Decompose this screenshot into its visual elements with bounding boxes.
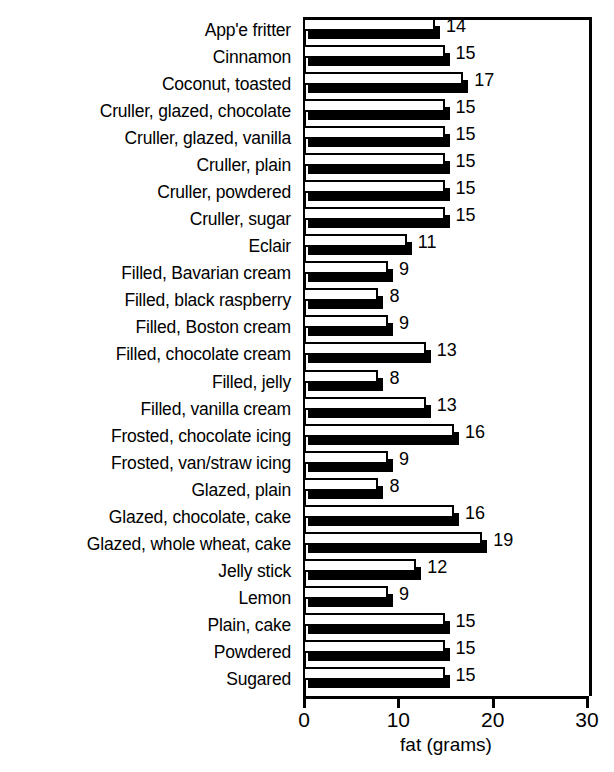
- category-label: Filled, vanilla cream: [0, 399, 296, 419]
- bar: 13: [303, 397, 434, 423]
- bar-value-label: 13: [437, 340, 457, 360]
- bar-value-label: 11: [418, 232, 437, 252]
- bar-value-label: 17: [474, 70, 494, 90]
- category-label: Filled, black raspberry: [0, 290, 296, 310]
- bar-face: [303, 342, 426, 355]
- x-tick-label: 10: [387, 708, 410, 732]
- bar-value-label: 8: [389, 368, 399, 388]
- plot-area: 1415171515151515119891381316981619129151…: [303, 17, 586, 693]
- bar: 9: [303, 315, 396, 341]
- bar: 15: [303, 126, 453, 152]
- bar-face: [303, 667, 445, 680]
- category-label: Filled, jelly: [0, 372, 296, 392]
- bar: 15: [303, 613, 453, 639]
- category-label: Plain, cake: [0, 615, 296, 635]
- bar-value-label: 15: [456, 178, 476, 198]
- x-tick-label: 0: [298, 708, 310, 732]
- category-label: Eclair: [0, 236, 296, 256]
- category-label: Frosted, chocolate icing: [0, 426, 296, 446]
- category-label: Cinnamon: [0, 47, 296, 67]
- bar-value-label: 15: [456, 665, 476, 685]
- category-label: Cruller, powdered: [0, 182, 296, 202]
- bar-value-label: 19: [493, 530, 513, 550]
- bar-face: [303, 18, 435, 31]
- bar: 11: [303, 234, 415, 260]
- category-label: App'e fritter: [0, 20, 296, 40]
- bar-value-label: 14: [446, 16, 466, 36]
- bar-value-label: 8: [389, 476, 399, 496]
- bar: 9: [303, 586, 396, 612]
- bar: 16: [303, 505, 462, 531]
- x-axis-line: [303, 696, 589, 699]
- bar: 15: [303, 99, 453, 125]
- category-label: Lemon: [0, 588, 296, 608]
- x-tick: [397, 696, 400, 708]
- bar-value-label: 15: [456, 97, 476, 117]
- bar: 8: [303, 370, 386, 396]
- category-label: Cruller, glazed, vanilla: [0, 128, 296, 148]
- bar: 13: [303, 342, 434, 368]
- bar: 9: [303, 451, 396, 477]
- bar-value-label: 15: [456, 151, 476, 171]
- category-label: Jelly stick: [0, 561, 296, 581]
- bar-value-label: 9: [399, 449, 409, 469]
- category-label: Glazed, chocolate, cake: [0, 507, 296, 527]
- bar: 19: [303, 532, 490, 558]
- bar-face: [303, 559, 416, 572]
- bar: 15: [303, 153, 453, 179]
- category-label: Coconut, toasted: [0, 74, 296, 94]
- bar-face: [303, 370, 378, 383]
- bar-face: [303, 72, 463, 85]
- category-label: Cruller, sugar: [0, 209, 296, 229]
- bar-face: [303, 315, 388, 328]
- bar: 15: [303, 667, 453, 693]
- category-label: Glazed, plain: [0, 480, 296, 500]
- bar-face: [303, 397, 426, 410]
- bar-face: [303, 288, 378, 301]
- bar: 15: [303, 207, 453, 233]
- bar-value-label: 12: [427, 557, 447, 577]
- category-label: Cruller, glazed, chocolate: [0, 101, 296, 121]
- bar-face: [303, 532, 482, 545]
- bar-face: [303, 613, 445, 626]
- bar: 16: [303, 424, 462, 450]
- x-tick-label: 20: [481, 708, 504, 732]
- category-label: Cruller, plain: [0, 155, 296, 175]
- bar-chart: App'e fritterCinnamonCoconut, toastedCru…: [0, 0, 614, 772]
- bar-value-label: 9: [399, 259, 409, 279]
- x-tick: [492, 696, 495, 708]
- x-tick-label: 30: [575, 708, 598, 732]
- category-label: Filled, Bavarian cream: [0, 263, 296, 283]
- bar-face: [303, 99, 445, 112]
- category-label: Sugared: [0, 669, 296, 689]
- bar-face: [303, 640, 445, 653]
- bar-value-label: 9: [399, 584, 409, 604]
- bar-value-label: 16: [465, 422, 485, 442]
- bar: 9: [303, 261, 396, 287]
- bar: 15: [303, 45, 453, 71]
- bar-value-label: 15: [456, 638, 476, 658]
- bar: 14: [303, 18, 443, 44]
- bar-face: [303, 478, 378, 491]
- bar: 15: [303, 640, 453, 666]
- category-label: Filled, chocolate cream: [0, 344, 296, 364]
- bar: 15: [303, 180, 453, 206]
- bar-face: [303, 126, 445, 139]
- x-axis-title: fat (grams): [303, 734, 589, 756]
- bar-value-label: 15: [456, 43, 476, 63]
- bar-face: [303, 207, 445, 220]
- bar: 12: [303, 559, 424, 585]
- bar-face: [303, 261, 388, 274]
- x-tick: [586, 696, 589, 708]
- bar-value-label: 8: [389, 286, 399, 306]
- bar-value-label: 15: [456, 205, 476, 225]
- bar-face: [303, 586, 388, 599]
- bar-face: [303, 180, 445, 193]
- bar-value-label: 16: [465, 503, 485, 523]
- bar: 17: [303, 72, 471, 98]
- category-label: Powdered: [0, 642, 296, 662]
- bar-face: [303, 505, 454, 518]
- bar-face: [303, 451, 388, 464]
- bar-value-label: 13: [437, 395, 457, 415]
- x-tick: [303, 696, 306, 708]
